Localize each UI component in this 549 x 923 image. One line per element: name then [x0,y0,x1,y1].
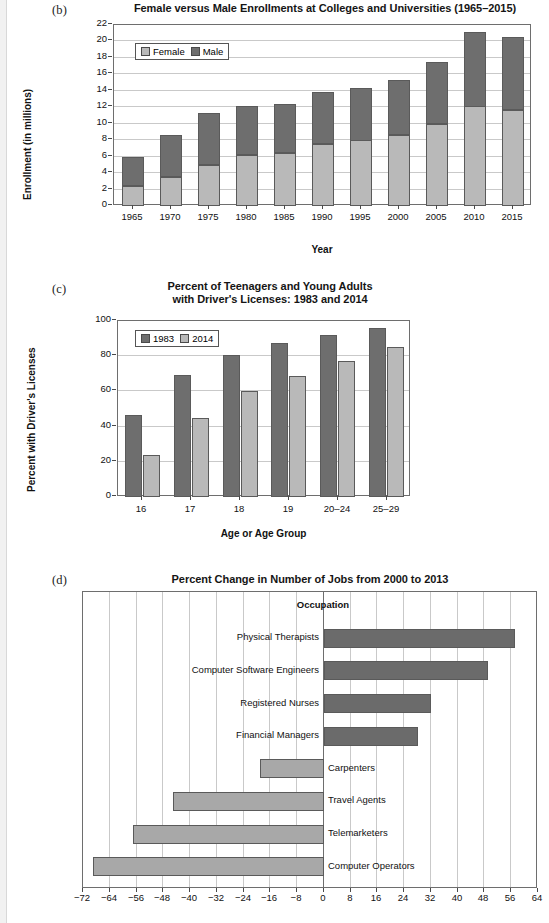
chart-c-ytick-label: 80 [84,349,111,359]
chart-d-occupation-header: Occupation [243,599,403,610]
chart-c-xtick [337,496,338,500]
chart-c-ytick-label: 60 [84,384,111,394]
chart-c-bar-2014 [338,361,355,497]
chart-b-legend-label: Male [203,46,224,57]
chart-b-xtick [474,205,475,209]
chart-c-xaxis-title: Age or Age Group [117,528,410,539]
chart-c-ytick [112,425,116,426]
chart-c-xtick-label: 20–24 [309,504,365,514]
chart-b-bar-female [464,106,486,206]
chart-b-ytick [108,39,112,40]
chart-c-xtick-label: 16 [113,504,169,514]
chart-d-bar [173,792,324,811]
chart-b-ytick-label: 2 [83,183,107,193]
chart-b-ytick-label: 18 [83,51,107,61]
chart-b-ytick [108,204,112,205]
chart-c-xtick-label: 19 [260,504,316,514]
chart-b-ytick [108,23,112,24]
chart-b-bar-male [236,106,258,155]
panel-b-enrollments: (b) Female versus Male Enrollments at Co… [0,0,549,262]
panel-c-title-line2: with Driver's Licenses: 1983 and 2014 [100,293,440,306]
panel-d-title: Percent Change in Number of Jobs from 20… [100,573,520,586]
chart-c-legend-label: 1983 [153,333,174,344]
chart-c-ytick [112,389,116,390]
chart-b-ytick [108,89,112,90]
chart-b-bar-male [426,62,448,124]
chart-d-bar [93,857,324,876]
chart-b-bar-female [350,140,372,206]
chart-c-xtick [288,496,289,500]
chart-b-ytick [108,171,112,172]
chart-c-bar-2014 [192,418,209,497]
chart-c-bar-1983 [174,375,191,497]
chart-c-bar-2014 [387,347,404,497]
chart-b-bar-male [350,88,372,141]
panel-c-drivers-licenses: (c) Percent of Teenagers and Young Adult… [0,262,549,545]
chart-c-gridline [118,461,409,462]
chart-b-ytick-label: 8 [83,133,107,143]
chart-b-ytick-label: 16 [83,67,107,77]
legend-swatch-1983 [141,334,150,343]
chart-b-ytick-label: 20 [83,34,107,44]
panel-d-letter: (d) [52,573,67,588]
chart-b-ytick [108,155,112,156]
chart-b-xtick [322,205,323,209]
chart-c-ytick-label: 40 [84,420,111,430]
chart-d-bar [260,759,324,778]
chart-b-ytick [108,188,112,189]
chart-c-ytick [112,319,116,320]
chart-c-bar-1983 [125,415,142,497]
chart-c-legend-item: 1983 [141,333,174,344]
chart-c-xtick-label: 18 [211,504,267,514]
chart-b-xtick [170,205,171,209]
chart-c-gridline [118,426,409,427]
chart-c-ytick [112,460,116,461]
chart-b-ytick-label: 22 [83,18,107,28]
chart-d-bar [324,727,418,746]
chart-c-xtick-label: 17 [162,504,218,514]
chart-b-bar-female [274,153,296,206]
chart-b-bar-female [236,155,258,206]
chart-b-ytick-label: 10 [83,117,107,127]
chart-c-ytick-label: 100 [84,314,111,324]
chart-b-xaxis-title: Year [113,244,531,255]
chart-b-bar-female [312,144,334,206]
chart-c-ytick-label: 0 [84,490,111,500]
chart-c-ytick [112,354,116,355]
chart-c-gridline [118,355,409,356]
chart-c-legend-item: 2014 [180,333,213,344]
chart-c-xtick [141,496,142,500]
chart-b-xtick [208,205,209,209]
chart-b-legend-item: Female [141,46,185,57]
chart-b-legend[interactable]: FemaleMale [135,43,229,60]
chart-b-xtick [436,205,437,209]
chart-c-xtick [190,496,191,500]
chart-c-legend[interactable]: 19832014 [135,330,219,347]
chart-c-ytick-label: 20 [84,455,111,465]
chart-d-bar [324,661,488,680]
chart-c-yaxis-title: Percent with Driver's Licenses [26,347,37,492]
chart-c-legend-label: 2014 [192,333,213,344]
chart-d-category-label: Financial Managers [137,729,319,740]
chart-d-category-label: Carpenters [328,762,510,773]
chart-d-bar [324,629,515,648]
chart-b-ytick-label: 0 [83,199,107,209]
chart-b-bar-male [198,113,220,165]
panel-c-title: Percent of Teenagers and Young Adults wi… [100,280,440,306]
chart-b-bar-male [388,80,410,135]
chart-b-bar-male [274,104,296,153]
chart-b-xtick [132,205,133,209]
chart-b-bar-male [464,32,486,107]
chart-b-ytick [108,138,112,139]
chart-b-xtick [246,205,247,209]
chart-c-bar-2014 [241,391,258,497]
chart-b-xtick [512,205,513,209]
chart-b-xtick [398,205,399,209]
legend-swatch-2014 [180,334,189,343]
chart-b-bar-female [122,186,144,206]
chart-b-bar-male [312,92,334,144]
chart-d-category-label: Travel Agents [328,794,510,805]
chart-b-bar-female [426,124,448,206]
chart-c-bar-2014 [143,455,160,497]
chart-d-category-label: Physical Therapists [137,631,319,642]
